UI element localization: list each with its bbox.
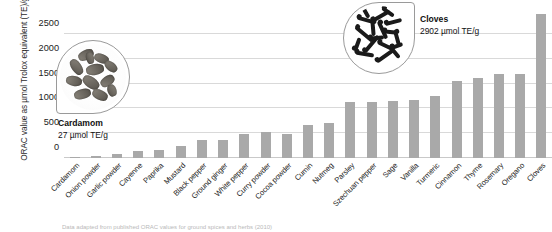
bar-black-pepper [197, 140, 207, 158]
callout-cardamom-value: 27 µmol TE/g [58, 130, 108, 140]
y-tick-label-0: 0 [0, 142, 59, 152]
y-tick-label-1000: 1000 [0, 92, 59, 102]
callout-cloves-name: Cloves [420, 14, 479, 24]
x-label-slot: Garlic powder [106, 159, 127, 217]
cardamom-pod [73, 87, 92, 101]
bar-slot [297, 14, 318, 158]
bar-cumin [303, 125, 313, 158]
x-label-slot: Cloves [531, 159, 552, 217]
cardamom-pods-photo [60, 44, 126, 110]
bar-slot [488, 14, 509, 158]
x-label-slot: Cumin [297, 159, 318, 217]
clove-bud [391, 42, 404, 50]
bar-cinnamon [452, 81, 462, 158]
bar-onion-powder [91, 156, 101, 158]
bar-slot [191, 14, 212, 158]
bar-slot [128, 14, 149, 158]
bar-sage [388, 101, 398, 158]
callout-cardamom-name: Cardamom [58, 118, 108, 128]
y-tick-label-2000: 2000 [0, 43, 59, 53]
bar-curry-powder [261, 132, 271, 158]
y-tick-label-500: 500 [0, 117, 59, 127]
callout-cloves-text: Cloves 2902 µmol TE/g [420, 14, 479, 36]
clove-bud [355, 50, 374, 57]
orac-spice-chart: ORAC value as µmol Trolox equivalent (TE… [0, 0, 552, 232]
bar-mustard [176, 146, 186, 158]
x-axis-labels: CardamomOnion powderGarlic powderCayenne… [64, 159, 552, 217]
callout-cloves-value: 2902 µmol TE/g [420, 26, 479, 36]
bar-slot [319, 14, 340, 158]
bar-slot [276, 14, 297, 158]
bar-cloves [536, 14, 546, 158]
x-label-slot: Paprika [149, 159, 170, 217]
bar-oregano [515, 74, 525, 158]
bar-slot [510, 14, 531, 158]
bar-cocoa-powder [282, 134, 292, 158]
bar-slot [149, 14, 170, 158]
bar-turmeric [430, 96, 440, 158]
x-label-slot: Oregano [510, 159, 531, 217]
x-label-slot: Cayenne [128, 159, 149, 217]
x-label-slot: Vanilla [404, 159, 425, 217]
x-label-slot: Rosemary [488, 159, 509, 217]
bar-slot [531, 14, 552, 158]
bar-paprika [154, 150, 164, 158]
clove-bud [353, 37, 361, 51]
bar-slot [170, 14, 191, 158]
bar-slot [234, 14, 255, 158]
x-label-slot: Szechuan pepper [361, 159, 382, 217]
cardamom-pod [103, 59, 120, 75]
cardamom-pod [65, 75, 82, 88]
source-caption: Data adapted from published ORAC values … [62, 224, 548, 232]
bar-garlic-powder [112, 154, 122, 158]
bar-nutmeg [324, 123, 334, 158]
bar-cardamom [70, 157, 80, 158]
y-tick-label-1500: 1500 [0, 68, 59, 78]
x-label-slot: Sage [382, 159, 403, 217]
bar-ground-ginger [218, 140, 228, 158]
bar-parsley [345, 102, 355, 158]
callout-cardamom-text: Cardamom 27 µmol TE/g [58, 118, 108, 140]
bar-slot [255, 14, 276, 158]
clove-bud [385, 18, 402, 26]
bar-slot [213, 14, 234, 158]
y-tick-label-2500: 2500 [0, 18, 59, 28]
bar-szechuan-pepper [367, 102, 377, 158]
x-label-slot: Cinnamon [446, 159, 467, 217]
bar-vanilla [409, 100, 419, 158]
x-label-sage: Sage [381, 161, 400, 180]
bar-rosemary [494, 74, 504, 158]
x-label-slot: Cocoa powder [276, 159, 297, 217]
clove-buds-photo [347, 6, 411, 70]
bar-cayenne [133, 151, 143, 158]
bar-white-pepper [239, 134, 249, 158]
bar-thyme [473, 78, 483, 158]
